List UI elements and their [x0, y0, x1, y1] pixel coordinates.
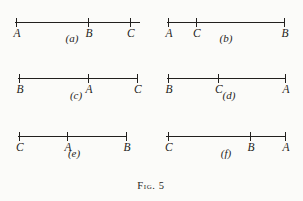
tick-mark-a-a: [16, 18, 17, 27]
axis-line-d: [167, 78, 286, 79]
axis-line-f: [166, 136, 286, 137]
tick-mark-e-a: [67, 132, 68, 141]
panel-caption-b: (b): [220, 32, 233, 44]
point-label-a-c: C: [127, 27, 135, 39]
tick-mark-b-a: [168, 18, 169, 27]
point-label-d-a: A: [282, 83, 289, 95]
panel-caption-e: (e): [68, 147, 80, 159]
point-label-a-b: B: [85, 27, 92, 39]
tick-mark-c-c: [137, 74, 138, 83]
tick-mark-a-b: [88, 18, 89, 27]
axis-line-e: [18, 136, 127, 137]
tick-mark-d-b: [168, 74, 169, 83]
panel-caption-c: (c): [70, 89, 82, 101]
panel-caption-f: (f): [221, 147, 231, 159]
panel-caption-d: (d): [223, 89, 236, 101]
tick-mark-e-b: [126, 132, 127, 141]
tick-mark-c-a: [88, 74, 89, 83]
axis-line-a: [15, 22, 140, 23]
point-label-d-b: B: [165, 83, 172, 95]
tick-mark-f-a: [285, 132, 286, 141]
tick-mark-a-c: [130, 18, 131, 27]
point-label-f-a: A: [282, 141, 289, 153]
figure-caption: Fig. 5: [137, 180, 164, 191]
tick-mark-b-c: [196, 18, 197, 27]
point-label-f-b: B: [247, 141, 254, 153]
point-label-b-a: A: [165, 27, 172, 39]
point-label-b-b: B: [281, 27, 288, 39]
tick-mark-c-b: [19, 74, 20, 83]
tick-mark-d-a: [285, 74, 286, 83]
point-label-e-b: B: [123, 141, 130, 153]
tick-mark-d-c: [218, 74, 219, 83]
point-label-e-c: C: [16, 141, 24, 153]
point-label-a-a: A: [13, 27, 20, 39]
point-label-c-a: A: [85, 83, 92, 95]
point-label-c-b: B: [16, 83, 23, 95]
point-label-f-c: C: [165, 141, 173, 153]
figure-fig-5: ABCACBBACBCACABCBA (a)(b)(c)(d)(e)(f) Fi…: [0, 0, 303, 201]
point-label-c-c: C: [134, 83, 142, 95]
tick-mark-e-c: [19, 132, 20, 141]
axis-line-c: [18, 78, 138, 79]
tick-mark-b-b: [284, 18, 285, 27]
tick-mark-f-b: [250, 132, 251, 141]
axis-line-b: [167, 22, 285, 23]
point-label-b-c: C: [193, 27, 201, 39]
tick-mark-f-c: [168, 132, 169, 141]
panel-caption-a: (a): [66, 32, 79, 44]
